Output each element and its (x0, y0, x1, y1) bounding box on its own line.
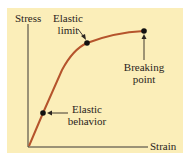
breaking-point-label-line2: point (133, 73, 156, 85)
elastic-limit-label-line1: Elastic (53, 12, 83, 24)
elastic-behavior-marker (40, 110, 46, 116)
x-axis-label: Strain (150, 140, 177, 152)
elastic-limit-marker (84, 40, 90, 46)
y-axis-label: Stress (15, 12, 41, 24)
stress-strain-diagram: Stress Strain Elastic limit Breaking poi… (0, 0, 195, 162)
elastic-behavior-label-line2: behavior (68, 115, 107, 127)
elastic-behavior-label-line1: Elastic (72, 103, 102, 115)
breaking-point-arrow (142, 34, 147, 60)
elastic-behavior-arrow (47, 111, 68, 116)
elastic-limit-label-line2: limit (58, 24, 79, 36)
elastic-limit-arrow (78, 29, 86, 40)
breaking-point-marker (141, 28, 147, 34)
stress-strain-curve (29, 31, 144, 146)
breaking-point-label-line1: Breaking (124, 61, 165, 73)
